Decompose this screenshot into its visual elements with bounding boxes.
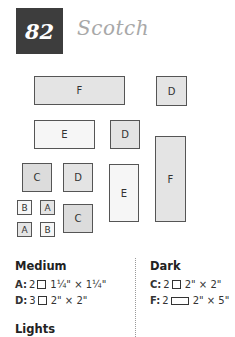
square-icon xyxy=(38,296,47,305)
square-icon xyxy=(172,280,181,289)
lights-heading: Lights xyxy=(15,322,55,336)
piece-label: F xyxy=(168,174,174,185)
piece-d: D xyxy=(110,120,140,149)
block-number: 82 xyxy=(25,19,54,44)
piece-label: A xyxy=(44,203,50,213)
piece-c: C xyxy=(22,163,52,192)
cut-line-dark-c: C: 2 2" × 2" xyxy=(150,279,221,290)
piece-label: B xyxy=(21,203,27,213)
piece-label: E xyxy=(61,129,67,140)
quantity: 2 xyxy=(29,279,35,290)
piece-letter: F: xyxy=(150,295,160,306)
piece-b: B xyxy=(40,222,55,237)
medium-heading: Medium xyxy=(15,259,67,273)
quantity: 2 xyxy=(162,295,168,306)
piece-a: A xyxy=(40,200,55,215)
piece-label: D xyxy=(168,86,176,97)
piece-label: D xyxy=(121,129,129,140)
dark-heading: Dark xyxy=(150,259,181,273)
block-number-badge: 82 xyxy=(16,8,63,54)
piece-f: F xyxy=(155,136,186,222)
piece-f: F xyxy=(34,76,125,105)
piece-c: C xyxy=(63,204,93,233)
rectangle-icon xyxy=(171,297,189,305)
piece-letter: A: xyxy=(15,279,27,290)
piece-d: D xyxy=(63,163,93,192)
piece-d: D xyxy=(156,76,187,106)
quantity: 2 xyxy=(163,279,169,290)
piece-e: E xyxy=(34,120,95,149)
cut-line-dark-f: F: 2 2" × 5" xyxy=(150,295,229,306)
cut-size: 1¼" × 1¼" xyxy=(50,279,106,290)
block-title: Scotch xyxy=(77,16,149,40)
piece-label: B xyxy=(44,225,50,235)
cut-line-medium-d: D: 3 2" × 2" xyxy=(15,295,87,306)
cut-size: 2" × 2" xyxy=(51,295,88,306)
piece-b: B xyxy=(17,200,32,215)
quantity: 3 xyxy=(29,295,35,306)
piece-e: E xyxy=(109,164,139,222)
piece-label: A xyxy=(21,225,27,235)
cut-line-medium-a: A: 2 1¼" × 1¼" xyxy=(15,279,106,290)
piece-label: D xyxy=(74,172,82,183)
square-icon xyxy=(37,280,46,289)
piece-label: F xyxy=(77,85,83,96)
piece-label: C xyxy=(75,213,82,224)
piece-label: C xyxy=(34,172,41,183)
piece-letter: D: xyxy=(15,295,27,306)
cut-size: 2" × 2" xyxy=(185,279,222,290)
column-divider xyxy=(135,258,136,337)
piece-a: A xyxy=(17,222,32,237)
piece-label: E xyxy=(121,188,127,199)
piece-letter: C: xyxy=(150,279,161,290)
cut-size: 2" × 5" xyxy=(193,295,230,306)
